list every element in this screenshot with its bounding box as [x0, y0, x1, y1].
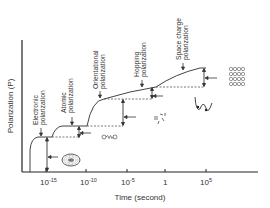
x-tick-label-2: 10-10: [80, 177, 97, 187]
x-axis-title: Time (second): [115, 193, 166, 202]
electron-cloud-icon: [62, 154, 80, 166]
svg-text:polarization: polarization: [39, 90, 47, 125]
x-tick-label-4: 1: [163, 178, 168, 187]
svg-text:Orientational: Orientational: [92, 50, 99, 89]
dashed-levels: [52, 87, 204, 137]
y-axis-title: Polarization (P): [6, 78, 15, 133]
label-hopping: Hopping polarization: [133, 42, 148, 77]
svg-text:polarization: polarization: [140, 42, 148, 77]
label-atomic: Atomic polarization: [60, 78, 75, 113]
space-charge-grid-icon: [229, 67, 244, 85]
x-tick-label-5: 105: [200, 177, 212, 187]
atomic-bond-icon: [102, 135, 117, 139]
x-tick-label-1: 10-15: [40, 177, 57, 187]
label-space-charge: Space charge polarization: [175, 18, 190, 60]
polarization-curve: [30, 68, 206, 172]
dipoles-icon: [154, 113, 165, 124]
svg-text:Electronic: Electronic: [32, 95, 39, 125]
polarization-diagram: 10-15 10-10 10-5 1 105 Time (second) Pol…: [0, 0, 270, 208]
label-electronic: Electronic polarization: [32, 90, 47, 125]
x-tick-label-3: 10-5: [121, 177, 135, 187]
label-orientational: Orientational polarization: [92, 50, 107, 89]
svg-text:polarization: polarization: [99, 54, 107, 89]
svg-text:Atomic: Atomic: [60, 92, 67, 113]
svg-text:polarization: polarization: [182, 25, 190, 60]
svg-text:polarization: polarization: [67, 78, 75, 113]
hopping-well-icon: [195, 97, 212, 111]
